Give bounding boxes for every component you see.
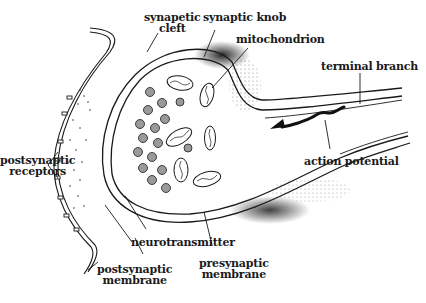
label-mitochondrion: mitochondrion xyxy=(236,34,325,45)
leader-lines xyxy=(48,30,360,270)
postsynaptic-membrane-shape xyxy=(54,28,115,274)
label-action-potential: action potential xyxy=(304,156,399,167)
label-line: receptors xyxy=(0,166,75,177)
label-terminal-branch: terminal branch xyxy=(321,61,418,72)
label-presynaptic-membrane: presynaptic membrane xyxy=(199,258,269,280)
label-line: membrane xyxy=(97,275,172,286)
label-synaptic-cleft: synapetic cleft xyxy=(144,12,201,34)
mitochondria xyxy=(163,74,222,190)
label-line: cleft xyxy=(144,23,201,34)
label-neurotransmitter: neurotransmitter xyxy=(131,237,235,248)
label-postsynaptic-receptors: postsynaptic receptors xyxy=(0,155,75,177)
label-line: membrane xyxy=(199,269,269,280)
neurotransmitter-dots xyxy=(67,89,91,209)
label-synaptic-knob: synaptic knob xyxy=(203,12,286,23)
label-postsynaptic-membrane: postsynaptic membrane xyxy=(97,264,172,286)
